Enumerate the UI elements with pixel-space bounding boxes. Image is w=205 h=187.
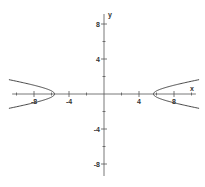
x-tick-label: 8 [172,98,176,105]
y-tick-label: -8 [94,161,100,168]
y-tick-label: 8 [96,21,100,28]
hyperbola-plot: -8-44884-4-8xy [0,0,205,187]
x-tick-label: -8 [31,98,37,105]
y-axis-label: y [108,11,112,19]
x-tick-label: -4 [66,98,72,105]
x-tick-label: 4 [137,98,141,105]
axis-labels: -8-44884-4-8xy [31,11,194,168]
y-tick-label: -4 [94,126,100,133]
x-axis-label: x [190,85,194,92]
axes [12,14,196,176]
y-tick-label: 4 [96,56,100,63]
